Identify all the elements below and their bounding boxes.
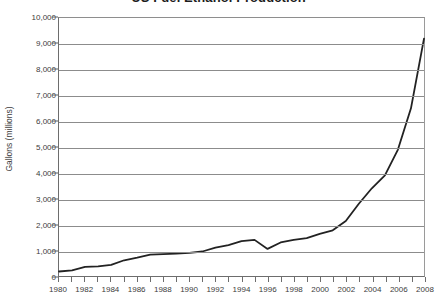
gridline-y (59, 252, 424, 253)
x-axis-tick-mark (97, 277, 98, 282)
chart-title: US Fuel Ethanol Production (0, 0, 437, 5)
x-axis-tick-mark (294, 277, 295, 282)
gridline-y (59, 200, 424, 201)
x-axis-tick-label: 1992 (206, 285, 224, 294)
x-axis-tick-label: 1994 (233, 285, 251, 294)
x-axis-tick-mark (58, 277, 59, 282)
x-axis-tick-mark (412, 277, 413, 282)
y-axis-tick-label: 9,000 (10, 39, 56, 48)
x-axis-tick-label: 2002 (337, 285, 355, 294)
y-axis-tick-mark (52, 95, 58, 96)
x-axis-tick-mark (150, 277, 151, 282)
data-series-line (59, 18, 424, 276)
gridline-y (59, 44, 424, 45)
x-axis-tick-label: 2008 (416, 285, 434, 294)
y-axis-tick-label: 4,000 (10, 169, 56, 178)
x-axis-tick-label: 1982 (75, 285, 93, 294)
x-axis-tick-mark (399, 277, 400, 282)
x-axis-tick-mark (84, 277, 85, 282)
y-axis-tick-mark (52, 69, 58, 70)
x-axis-tick-mark (386, 277, 387, 282)
y-axis-tick-mark (52, 225, 58, 226)
plot-area (58, 17, 425, 277)
x-axis-tick-mark (373, 277, 374, 282)
y-axis-tick-label: 3,000 (10, 195, 56, 204)
y-axis-tick-label: 6,000 (10, 117, 56, 126)
x-axis-tick-mark (71, 277, 72, 282)
x-axis-tick-mark (110, 277, 111, 282)
x-axis-tick-mark (176, 277, 177, 282)
gridline-y (59, 226, 424, 227)
y-axis-tick-label: 10,000 (10, 13, 56, 22)
y-axis-tick-mark (52, 43, 58, 44)
x-axis-tick-label: 1986 (128, 285, 146, 294)
x-axis-tick-mark (215, 277, 216, 282)
gridline-y (59, 96, 424, 97)
x-axis-tick-mark (346, 277, 347, 282)
x-axis-tick-label: 1988 (154, 285, 172, 294)
y-axis-tick-label: 1,000 (10, 247, 56, 256)
gridline-y (59, 174, 424, 175)
x-axis-tick-label: 2000 (311, 285, 329, 294)
y-axis-tick-label: 0 (10, 273, 56, 282)
y-axis-tick-mark (52, 17, 58, 18)
x-axis-tick-mark (242, 277, 243, 282)
x-axis-tick-mark (320, 277, 321, 282)
x-axis-tick-label: 1980 (49, 285, 67, 294)
x-axis-tick-mark (202, 277, 203, 282)
y-axis-tick-mark (52, 251, 58, 252)
y-axis-tick-mark (52, 121, 58, 122)
gridline-y (59, 148, 424, 149)
x-axis-tick-mark (255, 277, 256, 282)
y-axis-tick-label: 8,000 (10, 65, 56, 74)
y-axis-tick-mark (52, 199, 58, 200)
gridline-y (59, 122, 424, 123)
x-axis-tick-label: 2006 (390, 285, 408, 294)
x-axis-tick-mark (163, 277, 164, 282)
x-axis-tick-label: 1990 (180, 285, 198, 294)
y-axis-tick-mark (52, 147, 58, 148)
x-axis-tick-mark (124, 277, 125, 282)
x-axis-tick-mark (425, 277, 426, 282)
x-axis-tick-mark (189, 277, 190, 282)
x-axis-tick-mark (333, 277, 334, 282)
y-axis-tick-label: 2,000 (10, 221, 56, 230)
y-axis-tick-mark (52, 173, 58, 174)
x-axis-tick-mark (281, 277, 282, 282)
x-axis-tick-mark (268, 277, 269, 282)
gridline-y (59, 70, 424, 71)
x-axis-tick-mark (359, 277, 360, 282)
x-axis-tick-mark (228, 277, 229, 282)
x-axis-tick-label: 1998 (285, 285, 303, 294)
x-axis-tick-label: 2004 (364, 285, 382, 294)
y-axis-tick-label: 5,000 (10, 143, 56, 152)
x-axis-tick-mark (307, 277, 308, 282)
x-axis-tick-label: 1984 (102, 285, 120, 294)
x-axis-tick-mark (137, 277, 138, 282)
series-line-us-fuel-ethanol-production (59, 39, 424, 272)
y-axis-tick-label: 7,000 (10, 91, 56, 100)
x-axis-tick-label: 1996 (259, 285, 277, 294)
chart-container: US Fuel Ethanol Production Gallons (mill… (0, 0, 437, 304)
